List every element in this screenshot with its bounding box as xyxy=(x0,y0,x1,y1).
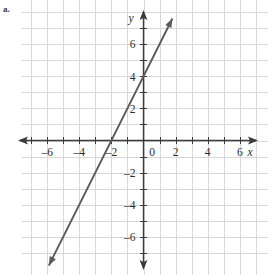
x-tick-label: –6 xyxy=(40,146,53,158)
y-tick-label: –4 xyxy=(123,199,136,211)
origin-label: 0 xyxy=(149,146,155,158)
y-tick-label: 4 xyxy=(130,71,136,83)
x-tick-label: 2 xyxy=(173,146,179,158)
y-tick-label: –2 xyxy=(123,167,136,179)
y-axis-label: y xyxy=(127,12,134,25)
x-axis-label: x xyxy=(246,146,253,158)
y-tick-label: 2 xyxy=(130,103,136,115)
x-tick-label: –2 xyxy=(105,146,118,158)
coordinate-plane: –6–4–2246–6–4–2246 x y 0 xyxy=(0,0,268,275)
x-tick-label: –4 xyxy=(73,146,86,158)
graph-figure: a. –6–4–2246–6–4–2246 x y 0 xyxy=(0,0,268,275)
problem-label: a. xyxy=(3,4,10,14)
x-tick-label: 6 xyxy=(237,146,243,158)
y-tick-label: 6 xyxy=(130,38,136,50)
y-tick-label: –6 xyxy=(123,231,136,243)
x-tick-label: 4 xyxy=(205,146,211,158)
